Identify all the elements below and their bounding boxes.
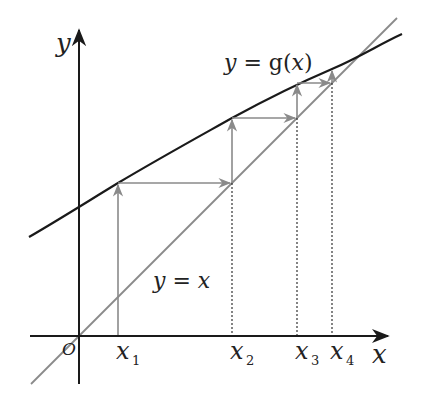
origin-label: O xyxy=(62,339,76,359)
x-axis-label: x xyxy=(372,339,387,369)
svg-text:1: 1 xyxy=(132,353,140,368)
curve-g xyxy=(29,34,402,237)
x1-label: x 1 xyxy=(116,337,140,368)
identity-line xyxy=(31,18,397,384)
x3-label: x 3 xyxy=(295,337,319,368)
svg-text:2: 2 xyxy=(246,353,254,368)
svg-text:3: 3 xyxy=(311,353,319,368)
svg-text:x: x xyxy=(116,337,130,365)
svg-text:x: x xyxy=(295,337,309,365)
svg-text:x: x xyxy=(230,337,244,365)
svg-text:x: x xyxy=(330,337,344,365)
x2-label: x 2 xyxy=(230,337,254,368)
svg-text:4: 4 xyxy=(346,353,354,368)
cobweb-diagram: y x O y = g(x) y = x x 1 x 2 x 3 x 4 xyxy=(0,0,421,399)
y-axis-label: y xyxy=(55,28,71,58)
curve-g-label: y = g(x) xyxy=(223,50,313,75)
identity-line-label: y = x xyxy=(152,268,211,293)
x4-label: x 4 xyxy=(330,337,354,368)
